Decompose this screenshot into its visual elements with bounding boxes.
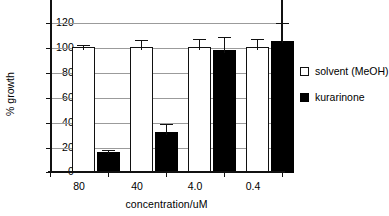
errorbar-stem-kurarinone-4 — [224, 37, 225, 53]
legend: solvent (MeOH) kurarinone — [300, 62, 389, 114]
errorbar-stem-solvent-40 — [141, 40, 142, 50]
x-tick-4 — [282, 172, 283, 177]
x-axis-title: concentration/uM — [50, 198, 283, 210]
x-tick-1 — [108, 172, 109, 177]
x-tick-label-4: 4.0 — [172, 180, 218, 192]
bar-kurarinone-04 — [271, 41, 294, 173]
y-tick-80 — [46, 73, 52, 74]
legend-item-solvent: solvent (MeOH) — [300, 62, 389, 80]
x-tick-label-04: 0.4 — [230, 180, 276, 192]
x-tick-label-80: 80 — [56, 180, 102, 192]
errorbar-cap-kurarinone-80 — [102, 150, 115, 151]
errorbar-cap-kurarinone-04 — [276, 23, 289, 24]
x-tick-2 — [166, 172, 167, 177]
errorbar-cap-solvent-40 — [135, 40, 148, 41]
errorbar-cap-kurarinone-4 — [218, 37, 231, 38]
y-tick-20 — [46, 148, 52, 149]
bar-kurarinone-4 — [213, 50, 236, 173]
bar-solvent-40 — [130, 47, 153, 173]
bar-kurarinone-80 — [97, 152, 120, 173]
x-tick-0 — [50, 172, 51, 177]
y-tick-60 — [46, 98, 52, 99]
y-tick-120 — [46, 23, 52, 24]
errorbar-cap-kurarinone-40 — [160, 124, 173, 125]
plot-area — [50, 0, 283, 172]
black-square-swatch-icon — [300, 93, 309, 102]
y-axis-title: % growth — [4, 58, 16, 130]
bar-solvent-80 — [72, 47, 95, 173]
x-tick-3 — [224, 172, 225, 177]
bar-solvent-4 — [188, 47, 211, 173]
legend-item-kurarinone: kurarinone — [300, 88, 389, 106]
errorbar-cap-solvent-80 — [77, 45, 90, 46]
bar-kurarinone-40 — [155, 132, 178, 173]
y-tick-100 — [46, 48, 52, 49]
errorbar-cap-solvent-4 — [193, 39, 206, 40]
errorbar-stem-kurarinone-04 — [282, 23, 283, 43]
bar-solvent-04 — [246, 47, 269, 173]
gridline-120 — [52, 23, 285, 24]
dotted-square-swatch-icon — [300, 67, 309, 76]
y-tick-40 — [46, 123, 52, 124]
errorbar-cap-solvent-04 — [251, 39, 264, 40]
errorbar-stem-kurarinone-40 — [166, 124, 167, 135]
errorbar-stem-solvent-04 — [257, 39, 258, 50]
x-tick-label-40: 40 — [114, 180, 160, 192]
legend-label-kurarinone: kurarinone — [315, 91, 365, 103]
errorbar-stem-solvent-4 — [199, 39, 200, 50]
legend-label-solvent: solvent (MeOH) — [315, 65, 389, 77]
